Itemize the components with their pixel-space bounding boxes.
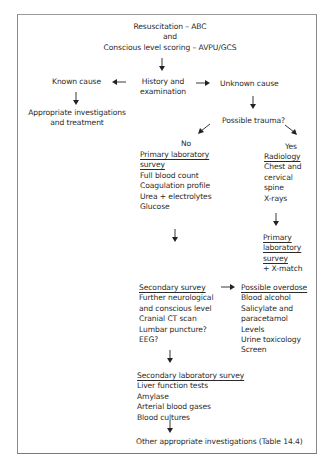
arrow-diagonal-down-left-icon xyxy=(198,124,210,134)
node-possible-overdose: Possible overdose Blood alcohol Salicyla… xyxy=(241,283,307,356)
list-item: and conscious level xyxy=(139,304,213,314)
no-label: No xyxy=(181,139,191,149)
node-radiology: Radiology Chest and cervical spine X-ray… xyxy=(264,152,302,204)
node-appropriate-investigations: Appropriate investigations and treatment xyxy=(22,108,132,129)
treatment-label: and treatment xyxy=(22,118,132,128)
and-label: and xyxy=(90,32,250,42)
list-item: Lumbar puncture? xyxy=(139,325,213,335)
node-unknown-cause: Unknown cause xyxy=(220,79,279,89)
secondary-lab-heading: Secondary laboratory survey xyxy=(137,371,244,381)
radiology-heading: Radiology xyxy=(264,152,302,162)
arrow-down-icon xyxy=(172,229,178,243)
arrow-down-icon xyxy=(167,420,173,434)
arrow-down-icon xyxy=(73,92,79,106)
list-item: spine xyxy=(264,183,302,193)
arrow-down-icon xyxy=(273,213,279,227)
arrow-down-icon xyxy=(167,350,173,364)
node-secondary-lab-survey: Secondary laboratory survey Liver functi… xyxy=(137,371,244,423)
list-item: Full blood count xyxy=(140,171,212,181)
list-item: Cranial CT scan xyxy=(139,314,213,324)
examination-label: examination xyxy=(135,87,191,97)
arrow-down-icon xyxy=(250,96,256,110)
investigations-label: Appropriate investigations xyxy=(22,108,132,118)
list-item: Amylase xyxy=(137,392,244,402)
list-item: X-rays xyxy=(264,194,302,204)
list-item: Urine toxicology xyxy=(241,335,307,345)
list-item: Liver function tests xyxy=(137,381,244,391)
survey-heading: survey xyxy=(263,254,302,264)
laboratory-heading: laboratory xyxy=(263,243,302,253)
list-item: Further neurological xyxy=(139,293,213,303)
list-item: Blood alcohol xyxy=(241,293,307,303)
arrow-diagonal-down-right-icon xyxy=(285,125,297,135)
resuscitation-label: Resuscitation – ABC xyxy=(90,22,250,32)
list-item: Levels xyxy=(241,325,307,335)
arrow-right-icon xyxy=(221,284,235,290)
list-item: Urea + electrolytes xyxy=(140,192,212,202)
node-primary-lab-survey: Primary laboratory survey Full blood cou… xyxy=(140,150,212,212)
primary-lab-heading-2: survey xyxy=(140,160,165,170)
node-resuscitation: Resuscitation – ABC and Conscious level … xyxy=(90,22,250,53)
arrow-right-icon xyxy=(196,80,210,86)
conscious-level-label: Conscious level scoring – AVPU/GCS xyxy=(90,43,250,53)
list-item: paracetamol xyxy=(241,314,307,324)
node-history-examination: History and examination xyxy=(135,77,191,98)
secondary-survey-heading: Secondary survey xyxy=(139,283,213,293)
list-item: cervical xyxy=(264,173,302,183)
list-item: EEG? xyxy=(139,335,213,345)
list-item: Salicylate and xyxy=(241,304,307,314)
list-item: Coagulation profile xyxy=(140,181,212,191)
arrow-down-icon xyxy=(159,58,165,72)
possible-overdose-heading: Possible overdose xyxy=(241,283,307,293)
history-label: History and xyxy=(135,77,191,87)
arrow-left-icon xyxy=(112,79,126,85)
yes-label: Yes xyxy=(285,142,297,152)
list-item: Glucose xyxy=(140,202,212,212)
list-item: Chest and xyxy=(264,162,302,172)
list-item: Blood cultures xyxy=(137,413,244,423)
node-primary-lab-survey-xmatch: Primary laboratory survey + X-match xyxy=(263,233,302,275)
node-secondary-survey: Secondary survey Further neurological an… xyxy=(139,283,213,345)
list-item: Arterial blood gases xyxy=(137,402,244,412)
primary-heading: Primary xyxy=(263,233,302,243)
list-item: Screen xyxy=(241,345,307,355)
node-known-cause: Known cause xyxy=(52,77,101,87)
node-possible-trauma: Possible trauma? xyxy=(222,116,285,126)
primary-lab-heading: Primary laboratory xyxy=(140,150,212,160)
xmatch-label: + X-match xyxy=(263,264,302,274)
node-other-investigations: Other appropriate investigations (Table … xyxy=(136,437,303,447)
